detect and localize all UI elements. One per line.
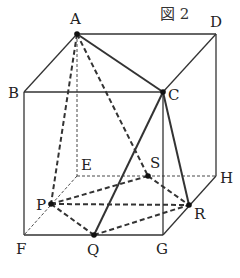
dot-R: [186, 202, 192, 208]
segment-QR: [94, 205, 189, 235]
cube-pyramid-diagram: 図 2 ADBCEHFGPQSR: [0, 0, 240, 278]
vertex-label-D: D: [210, 13, 222, 31]
segment-PS: [51, 176, 148, 204]
vertex-label-A: A: [69, 10, 81, 28]
segment-PQ: [51, 204, 94, 235]
vertex-label-H: H: [220, 169, 233, 187]
vertex-label-F: F: [16, 240, 26, 258]
dot-C: [160, 89, 166, 95]
vertex-label-B: B: [8, 84, 19, 102]
dot-P: [48, 201, 54, 207]
segment-CR: [163, 92, 189, 205]
dot-A: [74, 31, 80, 37]
segment-AC: [77, 34, 163, 92]
dot-Q: [91, 232, 97, 238]
vertex-label-G: G: [156, 240, 168, 258]
vertex-label-R: R: [194, 205, 206, 223]
vertex-label-Q: Q: [87, 241, 99, 259]
vertex-label-C: C: [168, 86, 179, 104]
vertex-labels: ADBCEHFGPQSR: [8, 10, 233, 259]
segment-AS: [77, 34, 148, 176]
segment-AP: [51, 34, 77, 204]
vertex-label-P: P: [36, 196, 46, 214]
vertex-label-E: E: [81, 156, 92, 174]
segment-DC: [163, 34, 216, 92]
vertex-label-S: S: [150, 154, 160, 172]
segment-PR: [51, 204, 189, 205]
figure-title: 図 2: [160, 5, 189, 23]
dot-S: [145, 173, 151, 179]
